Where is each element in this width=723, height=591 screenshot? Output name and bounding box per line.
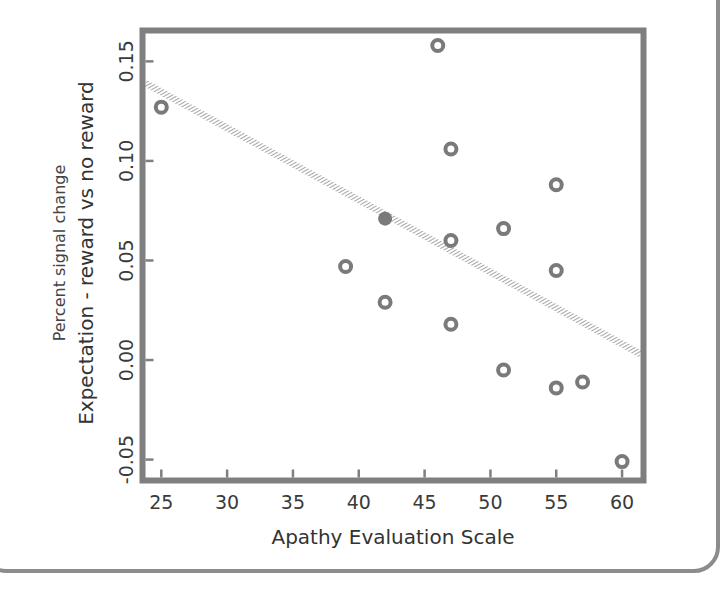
x-tick-label: 35 — [281, 491, 305, 513]
x-tick-label: 30 — [215, 491, 239, 513]
x-tick-label: 45 — [413, 491, 437, 513]
y-tick-label: 0.10 — [115, 140, 137, 182]
plot-frame — [143, 31, 644, 481]
data-point — [445, 319, 456, 330]
x-axis-ticks: 2530354045505560 — [149, 470, 634, 514]
data-point — [445, 235, 456, 246]
data-point — [498, 223, 509, 234]
y-tick-label: 0.05 — [115, 239, 137, 281]
x-tick-label: 55 — [544, 491, 568, 513]
data-point — [551, 265, 562, 276]
data-point — [445, 143, 456, 154]
x-tick-label: 40 — [347, 491, 371, 513]
regression-line-band — [146, 83, 641, 354]
data-points — [156, 40, 628, 467]
x-tick-label: 60 — [610, 491, 634, 513]
scatter-chart: -0.050.000.050.100.15 2530354045505560 A… — [0, 0, 723, 591]
x-tick-label: 25 — [149, 491, 173, 513]
data-point — [380, 297, 391, 308]
data-point — [551, 179, 562, 190]
data-point — [498, 364, 509, 375]
x-tick-label: 50 — [478, 491, 502, 513]
data-point — [432, 40, 443, 51]
data-point — [340, 261, 351, 272]
y-tick-label: 0.00 — [115, 339, 137, 381]
data-point — [551, 382, 562, 393]
data-point-filled — [378, 212, 392, 226]
regression-line — [146, 83, 641, 354]
data-point — [617, 456, 628, 467]
x-axis-title: Apathy Evaluation Scale — [271, 525, 514, 549]
data-point — [577, 376, 588, 387]
y-axis-title: Expectation - reward vs no reward — [74, 81, 98, 425]
y-axis-subtitle: Percent signal change — [50, 165, 69, 342]
data-point — [156, 102, 167, 113]
y-axis-ticks: -0.050.000.050.100.15 — [115, 40, 154, 484]
y-tick-label: 0.15 — [115, 40, 137, 82]
y-tick-label: -0.05 — [115, 435, 137, 484]
